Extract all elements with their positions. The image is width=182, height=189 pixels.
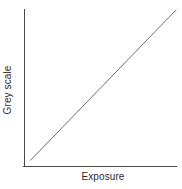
- y-axis-label: Grey scale: [0, 0, 14, 189]
- chart-figure: Grey scale Exposure: [0, 0, 182, 189]
- x-axis-label: Exposure: [0, 171, 182, 182]
- data-series-line: [31, 10, 176, 160]
- y-axis-label-text: Grey scale: [2, 66, 13, 115]
- plot-area: [0, 0, 182, 189]
